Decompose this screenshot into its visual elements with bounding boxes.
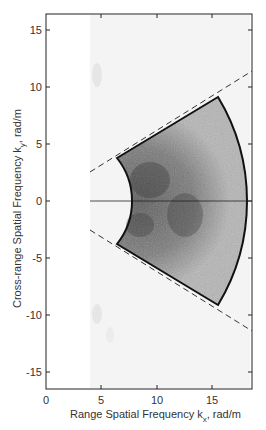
x-tick-label: 15 (206, 394, 218, 406)
faint-blob (92, 304, 102, 324)
x-axis-label: Range Spatial Frequency kx, rad/m (70, 408, 241, 424)
y-axis-label: Cross-range Spatial Frequency ky, rad/m (11, 109, 27, 308)
y-tick-label: -10 (26, 309, 42, 321)
dense-region (130, 162, 170, 198)
y-tick-label: 15 (30, 24, 42, 36)
x-tick-label: 10 (151, 394, 163, 406)
y-tick-label: 10 (30, 81, 42, 93)
x-tick-label: 5 (98, 394, 104, 406)
chart-svg: 0 5 10 15 15 10 5 0 -5 -10 -15 Range Spa… (0, 0, 266, 430)
y-tick-label: 5 (36, 138, 42, 150)
y-tick-label: 0 (36, 195, 42, 207)
dense-region (167, 193, 203, 237)
x-tick-label: 0 (43, 394, 49, 406)
y-tick-label: -15 (26, 366, 42, 378)
faint-blob (106, 327, 114, 343)
faint-blob (92, 63, 102, 87)
y-tick-label: -5 (32, 252, 42, 264)
